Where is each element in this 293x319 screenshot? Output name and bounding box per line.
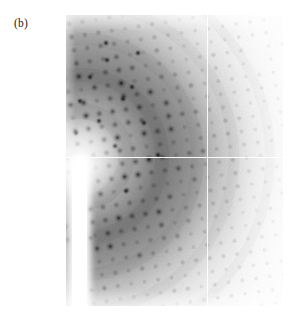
diffraction-pattern-canvas bbox=[66, 15, 283, 306]
panel-label: (b) bbox=[14, 17, 28, 30]
figure-root: (b) bbox=[0, 0, 293, 319]
diffraction-image-panel bbox=[66, 15, 283, 306]
